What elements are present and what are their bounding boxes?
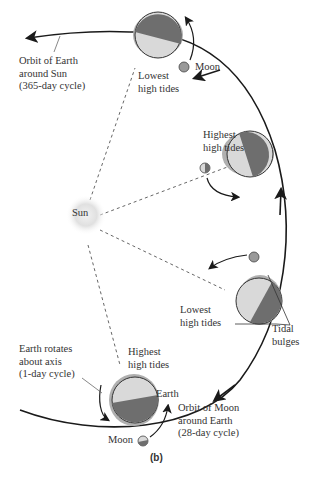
label-line: bulges: [272, 336, 299, 349]
label-line: Orbit of Moon: [178, 402, 239, 415]
label-line: Highest: [128, 346, 169, 359]
earth-rotates-label: Earth rotates about axis (1-day cycle): [19, 343, 75, 381]
label-line: (365-day cycle): [19, 80, 85, 93]
moon-right-icon: [200, 163, 210, 173]
label-line: high tides: [138, 83, 179, 96]
label-line: Earth rotates: [19, 343, 75, 356]
moon-orbit-label: Orbit of Moon around Earth (28-day cycle…: [178, 402, 239, 440]
earth-top-icon: [133, 12, 183, 58]
label-line: Lowest: [138, 70, 179, 83]
moon-bottom-icon: [138, 436, 148, 446]
label-line: (28-day cycle): [178, 427, 239, 440]
tidal-bulges-label: Tidal bulges: [272, 323, 299, 348]
lowest-top-label: Lowest high tides: [138, 70, 179, 95]
label-line: around Earth: [178, 415, 239, 428]
earth-lower-right-icon: [236, 275, 282, 325]
label-line: high tides: [180, 317, 221, 330]
label-line: Orbit of Earth: [19, 55, 85, 68]
moon-top-icon: [179, 62, 189, 72]
label-line: high tides: [128, 359, 169, 372]
earth-label: Earth: [156, 388, 179, 401]
label-line: Tidal: [272, 323, 299, 336]
label-line: Highest: [203, 129, 244, 142]
label-line: (1-day cycle): [19, 368, 75, 381]
label-line: high tides: [203, 142, 244, 155]
label-line: Lowest: [180, 304, 221, 317]
earth-orbit-label: Orbit of Earth around Sun (365-day cycle…: [19, 55, 85, 93]
highest-right-label: Highest high tides: [203, 129, 244, 154]
sun-label: Sun: [72, 207, 88, 220]
earth-bottom-icon: [109, 374, 159, 426]
moon-top-label: Moon: [195, 61, 220, 74]
moon-lower-right-icon: [249, 252, 259, 262]
label-line: around Sun: [19, 68, 85, 81]
highest-bottom-label: Highest high tides: [128, 346, 169, 371]
lowest-bottom-label: Lowest high tides: [180, 304, 221, 329]
label-line: about axis: [19, 356, 75, 369]
moon-bottom-label: Moon: [108, 434, 133, 447]
panel-label: (b): [150, 452, 163, 465]
